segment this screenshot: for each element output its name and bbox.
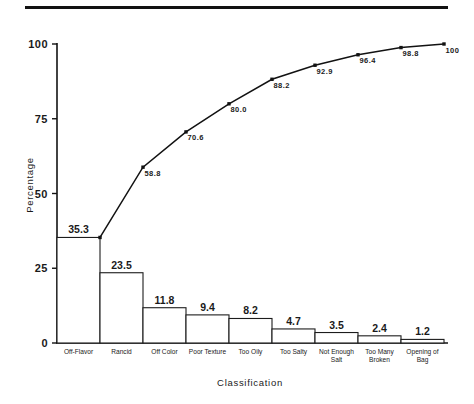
category-axis-label: Off Color <box>151 348 178 355</box>
category-axis-label: Salt <box>331 356 343 363</box>
bar-value-label: 9.4 <box>200 301 215 313</box>
category-axis-label: Broken <box>369 356 390 363</box>
bar <box>272 329 315 343</box>
bar-value-label: 4.7 <box>286 315 301 327</box>
bar-value-label: 1.2 <box>415 325 430 337</box>
y-axis-title: Percentage <box>24 157 35 213</box>
bar <box>401 339 444 343</box>
bar-value-label: 8.2 <box>243 304 258 316</box>
cumulative-line-layer <box>98 42 445 239</box>
category-axis-label: Off-Flavor <box>64 348 94 355</box>
cumulative-value-label: 80.0 <box>231 105 247 114</box>
cumulative-value-label: 96.4 <box>360 56 377 65</box>
chart-canvas: 1007550250 35.323.511.89.48.24.73.52.41.… <box>0 0 474 404</box>
category-axis-label: Bag <box>417 356 429 364</box>
y-axis-tick-label: 25 <box>35 262 48 274</box>
cumulative-value-label: 70.6 <box>188 133 204 142</box>
y-axis-tick-label: 75 <box>35 113 48 125</box>
cumulative-value-label: 100 <box>446 46 460 55</box>
category-axis-label: Not Enough <box>319 348 354 356</box>
category-axis-label: Too Oily <box>239 348 264 356</box>
y-axis-tick-label: 0 <box>41 337 48 349</box>
bar-value-label: 35.3 <box>68 223 89 235</box>
y-axis-tick-label: 100 <box>28 38 48 50</box>
bar <box>143 308 186 343</box>
cumulative-value-label: 92.9 <box>317 67 333 76</box>
bar <box>358 336 401 343</box>
category-axis-labels: Off-FlavorRancidOff ColorPoor TextureToo… <box>64 348 439 364</box>
cumulative-value-label: 98.8 <box>403 49 419 58</box>
category-axis-label: Rancid <box>111 348 132 355</box>
bar <box>229 318 272 343</box>
bar-value-label: 2.4 <box>372 322 387 334</box>
y-axis-tick-label: 50 <box>35 188 48 200</box>
category-axis-label: Poor Texture <box>189 348 227 355</box>
cumulative-value-label: 58.8 <box>145 169 161 178</box>
bar <box>186 315 229 343</box>
category-axis-label: Too Many <box>365 348 394 356</box>
bar <box>57 237 100 343</box>
category-axis-label: Opening of <box>406 348 438 356</box>
bar-value-label: 3.5 <box>329 319 344 331</box>
bar <box>315 333 358 343</box>
bar-value-label: 23.5 <box>111 259 132 271</box>
pareto-chart-figure: 1007550250 35.323.511.89.48.24.73.52.41.… <box>0 0 474 404</box>
cumulative-point-marker <box>98 236 101 239</box>
x-axis-title: Classification <box>217 377 283 388</box>
bar <box>100 273 143 343</box>
cumulative-line <box>100 44 444 237</box>
cumulative-value-label: 88.2 <box>274 81 290 90</box>
category-axis-label: Too Salty <box>280 348 308 356</box>
bar-value-label: 11.8 <box>155 294 175 306</box>
cumulative-value-labels: 58.870.680.088.292.996.498.8100 <box>145 46 460 178</box>
